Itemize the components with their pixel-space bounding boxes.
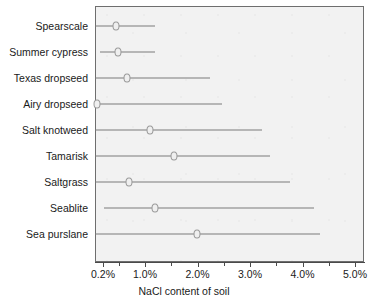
data-point-marker — [126, 178, 133, 187]
data-point-marker — [113, 22, 120, 31]
x-axis-tick — [103, 262, 104, 267]
category-label: Tamarisk — [46, 151, 88, 162]
range-line — [100, 52, 155, 53]
range-line — [95, 182, 290, 183]
range-line — [95, 78, 210, 79]
x-axis-minor-tick — [329, 262, 330, 266]
x-axis-tick-label: 3.0% — [238, 268, 262, 280]
x-axis-line — [95, 262, 365, 263]
x-axis-tick-label: 0.2% — [91, 268, 115, 280]
range-line — [95, 130, 262, 131]
category-label: Texas dropseed — [14, 73, 88, 84]
data-point-marker — [170, 152, 177, 161]
x-axis-tick — [250, 262, 251, 267]
x-axis-minor-tick — [276, 262, 277, 266]
x-axis-tick — [303, 262, 304, 267]
range-line — [104, 208, 314, 209]
x-axis-tick-label: 2.0% — [186, 268, 210, 280]
category-label: Salt knotweed — [22, 125, 88, 136]
x-axis-tick-label: 5.0% — [343, 268, 367, 280]
data-point-marker — [151, 204, 158, 213]
range-line — [97, 104, 222, 105]
data-point-marker — [115, 48, 122, 57]
category-label: Summer cypress — [9, 47, 88, 58]
range-line — [95, 234, 320, 235]
x-axis-minor-tick — [224, 262, 225, 266]
range-line — [95, 26, 155, 27]
x-axis-title: NaCl content of soil — [0, 285, 368, 297]
data-point-marker — [193, 230, 200, 239]
x-axis-minor-tick — [171, 262, 172, 266]
category-label: Airy dropseed — [23, 99, 88, 110]
data-point-marker — [124, 74, 131, 83]
x-axis-tick-label: 4.0% — [291, 268, 315, 280]
x-axis-tick — [355, 262, 356, 267]
x-axis-tick-label: 1.0% — [133, 268, 157, 280]
category-label: Saltgrass — [44, 177, 88, 188]
data-point-marker — [94, 100, 101, 109]
category-label: Seablite — [50, 203, 88, 214]
x-axis-tick — [145, 262, 146, 267]
plot-area — [95, 6, 364, 262]
range-line — [95, 156, 270, 157]
category-label: Spearscale — [35, 21, 88, 32]
data-point-marker — [147, 126, 154, 135]
paper-texture — [96, 7, 363, 261]
chart-root: SpearscaleSummer cypressTexas dropseedAi… — [0, 0, 368, 302]
x-axis-minor-tick — [119, 262, 120, 266]
category-label: Sea purslane — [26, 229, 88, 240]
x-axis-tick — [198, 262, 199, 267]
